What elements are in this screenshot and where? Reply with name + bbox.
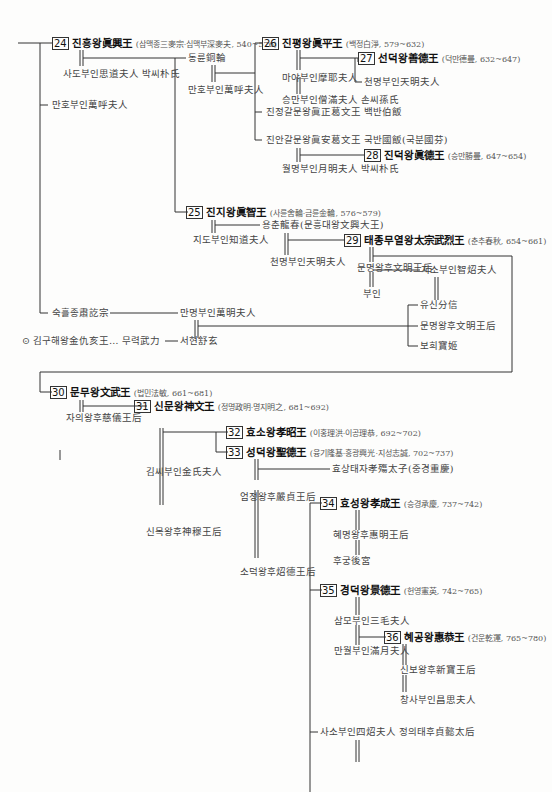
person-munmyeong-2: 문명왕후文明王后 bbox=[420, 320, 496, 332]
king-name: 진덕왕眞德王 bbox=[384, 149, 444, 161]
king-detail: (헌영憲英, 742~765) bbox=[404, 587, 483, 596]
king-number: 25 bbox=[186, 206, 203, 219]
person-sammo: 삼모부인三毛夫人 bbox=[334, 615, 410, 627]
person-jinjeong: 진정갈문왕眞正葛文王 백반伯飯 bbox=[266, 106, 402, 118]
king-24: 24진흥왕眞興王(삼맥종三麥宗·심맥부深麥夫, 540~576) bbox=[52, 37, 277, 51]
person-eomjeong: 엄정왕후嚴貞王后 bbox=[240, 491, 316, 503]
king-detail: (법민法敏, 661~681) bbox=[134, 389, 213, 398]
king-detail: (승경承慶, 737~742) bbox=[404, 500, 483, 509]
king-detail: (승만勝曼, 647~654) bbox=[448, 152, 527, 161]
king-28: 28진덕왕眞德王(승만勝曼, 647~654) bbox=[364, 149, 526, 163]
person-cheonmyeong-2: 천명부인天明夫人 bbox=[270, 256, 346, 268]
person-wolmyeong: 월명부인月明夫人 박씨朴氏 bbox=[282, 163, 399, 175]
king-name: 진흥왕眞興王 bbox=[72, 37, 132, 49]
king-33: 33성덕왕聖德王(융기隆基·흥광興光·지성志誠, 702~737) bbox=[226, 446, 453, 460]
king-36: 36혜공왕惠恭王(건운乾運, 765~780) bbox=[384, 631, 546, 645]
king-number: 32 bbox=[226, 426, 243, 439]
person-seungman: 승만부인僧滿夫人 손씨孫氏 bbox=[282, 94, 399, 106]
king-30: 30문무왕文武王(법민法敏, 661~681) bbox=[50, 386, 212, 400]
person-kimssi: 김씨부인金氏夫人 bbox=[146, 466, 222, 478]
king-name: 혜공왕惠恭王 bbox=[404, 631, 464, 643]
king-34: 34효성왕孝成王(승경承慶, 737~742) bbox=[320, 497, 482, 511]
king-detail: (백정白淨, 579~632) bbox=[346, 40, 425, 49]
king-number: 36 bbox=[384, 631, 401, 644]
king-26: 26진평왕眞平王(백정白淨, 579~632) bbox=[262, 37, 424, 51]
person-hugung: 후궁後宮 bbox=[333, 555, 371, 567]
king-name: 신문왕神文王 bbox=[154, 400, 214, 412]
person-sinmok: 신목왕후神穆王后 bbox=[146, 526, 222, 538]
king-detail: (사륜舍輪·금륜金輪, 576~579) bbox=[270, 209, 381, 218]
king-25: 25진지왕眞智王(사륜舍輪·금륜金輪, 576~579) bbox=[186, 206, 381, 220]
king-detail: (덕만德曼, 632~647) bbox=[442, 55, 521, 64]
king-31: 31신문왕神文王(정명政明·명지明之, 681~692) bbox=[134, 400, 329, 414]
king-name: 태종무열왕太宗武烈王 bbox=[364, 234, 464, 246]
king-number: 26 bbox=[262, 37, 279, 50]
person-hyosang: 효상태자孝殤太子(중경重慶) bbox=[332, 463, 453, 475]
person-maya: 마야부인摩耶夫人 bbox=[282, 72, 358, 84]
king-detail: (삼맥종三麥宗·심맥부深麥夫, 540~576) bbox=[136, 40, 277, 49]
king-name: 성덕왕聖德王 bbox=[246, 446, 306, 458]
person-sado: 사도부인思道夫人 박씨朴氏 bbox=[63, 68, 180, 80]
person-kimgu: ⊙ 김구해왕金仇亥王… 무력武力 bbox=[22, 335, 160, 347]
king-detail: (융기隆基·흥광興光·지성志誠, 702~737) bbox=[310, 449, 454, 458]
king-35: 35경덕왕景德王(헌영憲英, 742~765) bbox=[320, 584, 482, 598]
person-sodeok: 소덕왕후炤德王后 bbox=[240, 566, 316, 578]
king-number: 28 bbox=[364, 149, 381, 162]
person-jiso: 지소부인智炤夫人 bbox=[421, 264, 497, 276]
person-manwol: 만월부인滿月夫人 bbox=[334, 645, 410, 657]
person-jinan: 진안갈문왕眞安葛文王 국반國飯(국분國芬) bbox=[266, 134, 447, 146]
person-changsa: 창사부인昌思夫人 bbox=[400, 694, 476, 706]
king-number: 33 bbox=[226, 446, 243, 459]
person-hyemyeong: 혜명왕후惠明王后 bbox=[333, 529, 409, 541]
king-name: 선덕왕善德王 bbox=[378, 52, 438, 64]
king-detail: (정명政明·명지明之, 681~692) bbox=[218, 403, 329, 412]
person-bohui: 보희寶姬 bbox=[420, 340, 458, 352]
marker-circle-icon: ⊙ bbox=[22, 335, 30, 346]
person-yusin: 유신分信 bbox=[420, 299, 458, 311]
person-cheonmyeong-1: 천명부인天明夫人 bbox=[364, 76, 440, 88]
king-number: 24 bbox=[52, 37, 69, 50]
king-number: 30 bbox=[50, 386, 67, 399]
king-name: 진지왕眞智王 bbox=[206, 206, 266, 218]
king-number: 35 bbox=[320, 584, 337, 597]
king-name: 효성왕孝成王 bbox=[340, 497, 400, 509]
king-27: 27선덕왕善德王(덕만德曼, 632~647) bbox=[358, 52, 520, 66]
king-detail: (이홍理洪·이공理恭, 692~702) bbox=[310, 429, 421, 438]
person-jaui: 자의왕후慈儀王后 bbox=[66, 412, 142, 424]
king-number: 27 bbox=[358, 52, 375, 65]
person-manho-2: 만호부인萬呼夫人 bbox=[188, 84, 264, 96]
person-sukheul: 숙흘종肅訖宗 bbox=[52, 307, 109, 319]
king-number: 34 bbox=[320, 497, 337, 510]
person-seohyeon: 서현舒玄 bbox=[180, 335, 218, 347]
person-dongryun: 동륜銅輪 bbox=[188, 52, 226, 64]
person-kimgu-label: 김구해왕金仇亥王… 무력武力 bbox=[33, 335, 160, 346]
person-manmyeong: 만명부인萬明夫人 bbox=[180, 307, 256, 319]
king-29: 29태종무열왕太宗武烈王(춘추春秋, 654~661) bbox=[344, 234, 546, 248]
king-name: 효소왕孝昭王 bbox=[246, 426, 306, 438]
person-saso: 사소부인四炤夫人 정의태후貞懿太后 bbox=[320, 726, 475, 738]
king-name: 문무왕文武王 bbox=[70, 386, 130, 398]
king-name: 경덕왕景德王 bbox=[340, 584, 400, 596]
king-detail: (건운乾運, 765~780) bbox=[468, 634, 547, 643]
king-detail: (춘추春秋, 654~661) bbox=[468, 237, 547, 246]
king-number: 29 bbox=[344, 234, 361, 247]
person-sinbo: 신보왕후新寶王后 bbox=[400, 664, 476, 676]
king-32: 32효소왕孝昭王(이홍理洪·이공理恭, 692~702) bbox=[226, 426, 421, 440]
person-manho-1: 만호부인萬呼夫人 bbox=[52, 99, 128, 111]
king-name: 진평왕眞平王 bbox=[282, 37, 342, 49]
person-jido: 지도부인知道夫人 bbox=[193, 234, 269, 246]
person-yongchun: 용춘龍春(문흥대왕文興大王) bbox=[262, 219, 383, 231]
person-buin: 부인 bbox=[363, 288, 381, 300]
